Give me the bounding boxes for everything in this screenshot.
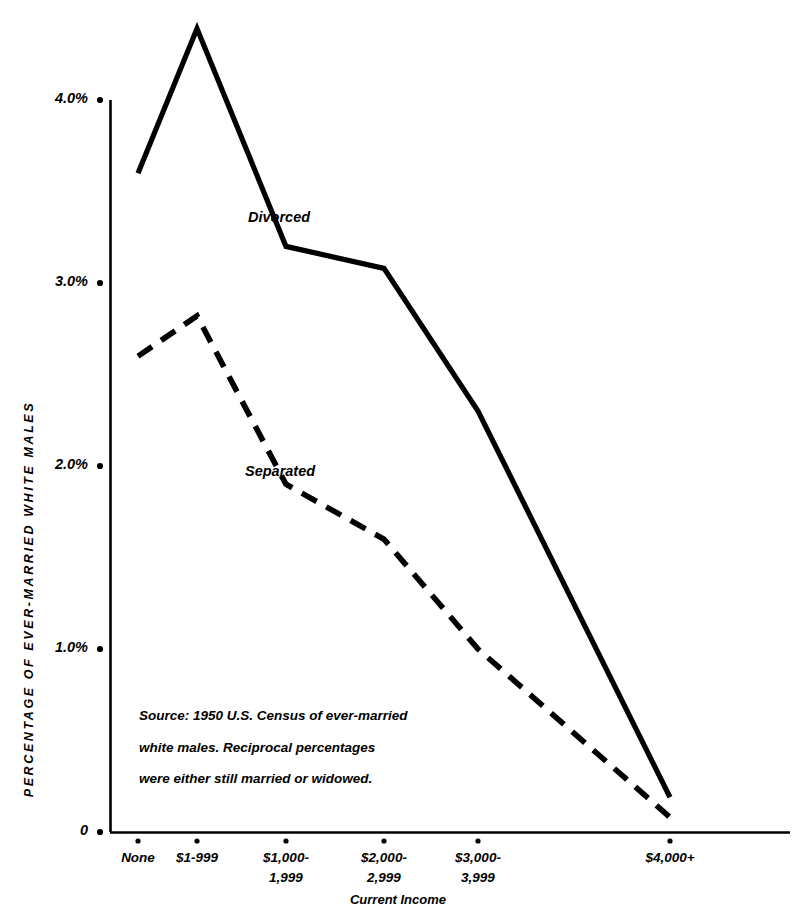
series-label-divorced: Divorced [248, 209, 310, 225]
x-tick-dot-4000-plus [667, 838, 672, 843]
x-tick-dot-1-999 [194, 838, 199, 843]
y-tick-label-3: 3.0% [20, 273, 88, 289]
y-tick-label-4: 4.0% [20, 90, 88, 106]
y-tick-dot-3 [97, 280, 103, 286]
y-tick-dot-4 [97, 97, 103, 103]
y-tick-label-2: 2.0% [20, 456, 88, 472]
series-label-separated: Separated [245, 463, 315, 479]
y-tick-label-0: 0 [20, 822, 88, 838]
y-tick-dot-0 [97, 829, 103, 835]
x-tick-dot-1000-1999 [283, 838, 288, 843]
chart-figure: PERCENTAGE OF EVER-MARRIED WHITE MALES 4… [0, 0, 796, 918]
source-note-line-1: Source: 1950 U.S. Census of ever-married [139, 700, 408, 732]
x-tick-dot-2000-2999 [381, 838, 386, 843]
x-tick-dot-3000-3999 [475, 838, 480, 843]
y-tick-dot-1 [97, 646, 103, 652]
y-tick-label-1: 1.0% [20, 639, 88, 655]
source-note: Source: 1950 U.S. Census of ever-married… [139, 700, 408, 795]
x-tick-label-3000-3999: $3,000- 3,999 [418, 848, 538, 887]
y-tick-dot-2 [97, 463, 103, 469]
x-tick-label-3000-3999-line2: 3,999 [418, 868, 538, 888]
x-tick-label-4000-plus: $4,000+ [610, 848, 730, 868]
x-tick-dot-none [135, 838, 140, 843]
x-tick-label-3000-3999-line1: $3,000- [418, 848, 538, 868]
source-note-line-2: white males. Reciprocal percentages [139, 732, 408, 764]
y-axis-title: PERCENTAGE OF EVER-MARRIED WHITE MALES [22, 334, 36, 864]
source-note-line-3: were either still married or widowed. [139, 763, 408, 795]
x-axis-title: Current Income [0, 892, 796, 907]
x-tick-label-4000-plus-line1: $4,000+ [610, 848, 730, 868]
